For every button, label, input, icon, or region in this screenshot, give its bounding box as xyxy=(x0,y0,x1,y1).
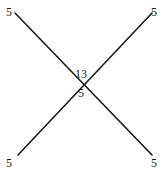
label-center-below-intersection: 5 xyxy=(78,87,84,99)
label-top-left: 5 xyxy=(6,6,12,18)
label-bottom-left: 5 xyxy=(6,157,12,169)
label-bottom-right: 5 xyxy=(151,157,157,169)
label-top-right: 5 xyxy=(151,6,157,18)
crossing-segments-figure: 5 5 5 5 13 5 xyxy=(0,0,165,175)
label-center-above-intersection: 13 xyxy=(75,68,87,80)
